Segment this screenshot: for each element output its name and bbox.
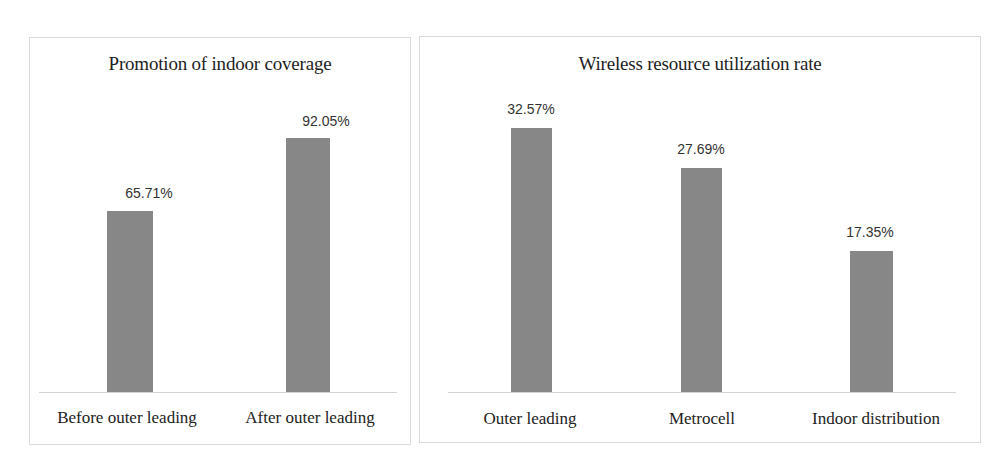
bar-value-label: 17.35% bbox=[820, 224, 920, 240]
chart-panel-indoor-coverage: Promotion of indoor coverage 65.71% 92.0… bbox=[29, 37, 411, 445]
chart-panel-wireless-utilization: Wireless resource utilization rate 32.57… bbox=[419, 36, 981, 443]
bar-indoor-distribution bbox=[850, 251, 893, 392]
bar-value-label: 92.05% bbox=[276, 113, 376, 129]
x-tick-label: Outer leading bbox=[460, 409, 600, 429]
bar-outer-leading bbox=[511, 128, 552, 392]
bar-value-label: 65.71% bbox=[99, 185, 199, 201]
x-axis-line bbox=[448, 392, 956, 393]
bar-value-label: 32.57% bbox=[481, 101, 581, 117]
bar-value-label: 27.69% bbox=[651, 141, 751, 157]
x-tick-label: Metrocell bbox=[642, 409, 762, 429]
bar-before-outer-leading bbox=[107, 211, 153, 392]
x-tick-label: Indoor distribution bbox=[796, 409, 956, 429]
bar-metrocell bbox=[681, 168, 722, 392]
x-tick-label: After outer leading bbox=[220, 408, 400, 428]
chart-title: Wireless resource utilization rate bbox=[420, 53, 980, 75]
chart-title: Promotion of indoor coverage bbox=[30, 53, 410, 75]
x-tick-label: Before outer leading bbox=[32, 408, 222, 428]
x-axis-line bbox=[39, 392, 397, 393]
bar-after-outer-leading bbox=[286, 138, 330, 392]
